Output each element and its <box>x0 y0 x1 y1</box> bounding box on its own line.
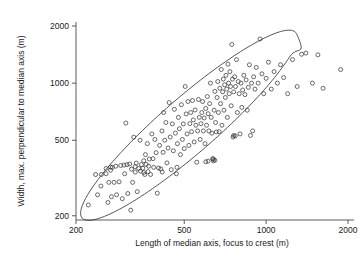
data-point <box>131 180 135 184</box>
data-point <box>96 193 100 197</box>
data-point <box>245 108 249 112</box>
data-point <box>237 92 241 96</box>
data-point <box>272 70 276 74</box>
data-point <box>165 161 169 165</box>
data-point <box>213 89 217 93</box>
data-point <box>160 129 164 133</box>
data-point <box>310 81 314 85</box>
data-point <box>198 137 202 141</box>
data-point <box>214 121 218 125</box>
data-point <box>164 121 168 125</box>
data-point <box>253 87 257 91</box>
data-point <box>194 123 198 127</box>
data-point <box>243 93 247 97</box>
data-point <box>238 132 242 136</box>
data-point <box>246 85 250 89</box>
data-point <box>200 111 204 115</box>
data-point <box>195 160 199 164</box>
data-point <box>145 142 149 146</box>
data-point <box>229 85 233 89</box>
data-point <box>182 147 186 151</box>
data-point <box>189 111 193 115</box>
data-point <box>107 180 111 184</box>
data-point <box>204 107 208 111</box>
data-point <box>99 173 103 177</box>
data-point <box>223 96 227 100</box>
data-point <box>227 92 231 96</box>
data-point <box>170 122 174 126</box>
data-point <box>130 167 134 171</box>
x-tick-label: 2000 <box>339 225 358 235</box>
data-point <box>201 100 205 104</box>
data-point <box>203 142 207 146</box>
data-point <box>235 111 239 115</box>
data-point <box>188 122 192 126</box>
data-point <box>183 85 187 89</box>
data-point <box>193 108 197 112</box>
data-point <box>295 85 299 89</box>
y-tick-label: 2000 <box>50 21 69 31</box>
data-point <box>264 76 268 80</box>
data-point <box>205 95 209 99</box>
x-tick-label: 1000 <box>257 225 276 235</box>
data-point <box>129 208 133 212</box>
data-point <box>232 90 236 94</box>
data-point <box>197 115 201 119</box>
data-point <box>290 58 294 62</box>
data-point <box>133 170 137 174</box>
data-point <box>225 115 229 119</box>
y-tick-label: 500 <box>55 135 69 145</box>
data-point <box>169 168 173 172</box>
y-tick-label: 1000 <box>50 78 69 88</box>
data-point <box>219 102 223 106</box>
data-point <box>275 81 279 85</box>
data-point <box>304 51 308 55</box>
data-point <box>240 105 244 109</box>
data-point <box>147 157 151 161</box>
data-point <box>316 53 320 57</box>
data-point <box>156 166 160 170</box>
data-point <box>220 123 224 127</box>
data-point <box>135 190 139 194</box>
data-point <box>142 159 146 163</box>
data-point <box>167 101 171 105</box>
data-point <box>252 75 256 79</box>
data-point <box>260 72 264 76</box>
data-point <box>126 192 130 196</box>
data-point <box>199 122 203 126</box>
data-point <box>202 116 206 120</box>
data-point <box>234 85 238 89</box>
data-point <box>269 87 273 91</box>
data-point <box>217 130 221 134</box>
data-point <box>146 170 150 174</box>
data-point <box>172 107 176 111</box>
data-point <box>161 150 165 154</box>
data-point <box>218 86 222 90</box>
data-point <box>178 153 182 157</box>
data-point <box>128 162 132 166</box>
data-point <box>241 88 245 92</box>
data-point <box>234 58 238 62</box>
data-point <box>208 81 212 85</box>
data-point <box>248 133 252 137</box>
data-point <box>210 131 214 135</box>
data-point <box>300 52 304 56</box>
scatter-chart: 2005001000200020050010002000Length of me… <box>0 0 362 263</box>
data-point <box>262 92 266 96</box>
data-point <box>226 62 230 66</box>
data-point <box>225 87 229 91</box>
data-point <box>242 73 246 77</box>
data-point <box>244 78 248 82</box>
data-point <box>155 191 159 195</box>
data-point <box>152 165 156 169</box>
data-point <box>192 140 196 144</box>
data-point <box>184 112 188 116</box>
y-tick-label: 200 <box>55 211 69 221</box>
data-point <box>109 195 113 199</box>
data-point <box>153 137 157 141</box>
data-point <box>120 197 124 201</box>
data-point <box>208 102 212 106</box>
data-point <box>212 108 216 112</box>
data-point <box>190 99 194 103</box>
data-point <box>175 165 179 169</box>
